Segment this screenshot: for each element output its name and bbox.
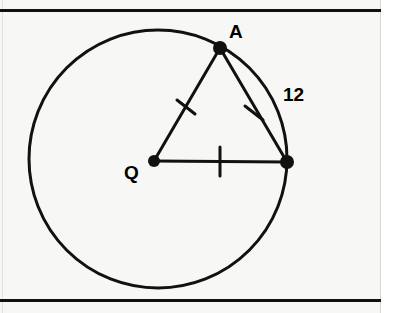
label-point-a: A: [229, 21, 243, 42]
geometry-diagram: Q A 12: [0, 0, 400, 313]
geometry-figure-container: Q A 12: [0, 0, 400, 313]
figure-background: [0, 0, 400, 313]
page-right-margin: [381, 0, 400, 313]
point-dot-b: [280, 155, 294, 169]
point-dot-q: [148, 155, 160, 167]
label-chord-length: 12: [283, 84, 304, 105]
label-point-q: Q: [124, 162, 139, 183]
point-dot-a: [213, 41, 227, 55]
